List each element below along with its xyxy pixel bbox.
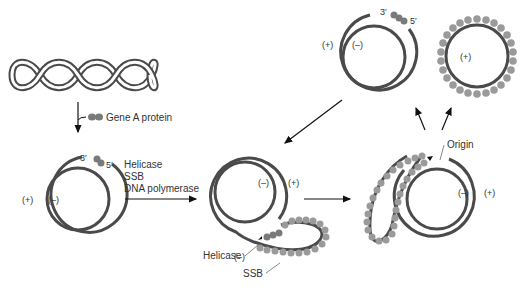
five-prime-label: 5′: [106, 160, 113, 170]
three-prime-label: 3′: [80, 153, 87, 163]
plus-strand-label-5b: (+): [460, 52, 471, 62]
enzyme-helicase: Helicase: [124, 159, 163, 170]
origin-label: Origin: [447, 139, 474, 150]
arrow-to-stage5a: [416, 108, 425, 130]
plus-strand-label: (+): [22, 195, 33, 205]
plus-strand-label-4: (+): [484, 188, 495, 198]
minus-strand-label: (–): [48, 195, 59, 205]
ssb-coated-circle: [437, 15, 517, 98]
gene-a-protein-icon: [88, 114, 103, 121]
minus-label-inside: (–): [258, 178, 269, 188]
arrow-stage5a-to-stage3: [285, 100, 342, 143]
three-prime-label-5a: 3′: [380, 7, 387, 17]
gene-a-protein-label: Gene A protein: [106, 112, 172, 123]
arrow-stage1-to-stage2: [78, 102, 86, 132]
plus-strand-label-5a: (+): [322, 40, 333, 50]
enzyme-ssb: SSB: [124, 171, 144, 182]
enzyme-dna-polymerase: DNA polymerase: [124, 183, 199, 194]
ssb-label: SSB: [243, 268, 263, 279]
plus-label-outside: (+): [288, 178, 299, 188]
helicase-label: Helicase: [203, 250, 242, 261]
gene-a-protein-bound-icon: [94, 156, 105, 167]
rolling-circle-diagram: Gene A protein 3′ 5′ (+) (–) Helicase SS…: [0, 0, 522, 288]
nicked-circle: [47, 157, 127, 232]
replicating-circle: [370, 156, 474, 241]
minus-strand-label-5a: (–): [352, 40, 363, 50]
arrow-to-stage5b: [442, 108, 451, 130]
minus-strand-label-4: (–): [458, 188, 469, 198]
gene-a-protein-5a-icon: [391, 12, 408, 25]
supercoiled-dna: [12, 62, 155, 88]
daughter-double-circle: [341, 15, 417, 90]
five-prime-label-5a: 5′: [410, 16, 417, 26]
helicase-icon: [264, 230, 283, 241]
